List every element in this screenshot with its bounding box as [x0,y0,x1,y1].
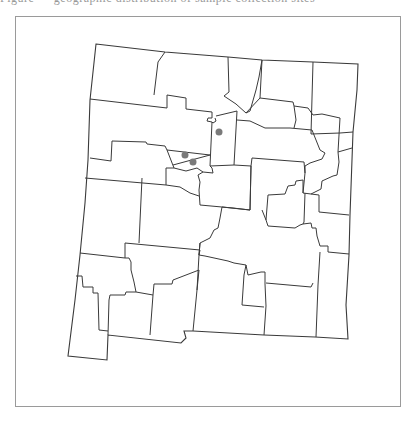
site-marker [182,152,189,159]
site-marker [216,129,223,136]
state-outline [68,44,358,360]
site-marker [190,159,197,166]
county-map [0,0,419,423]
